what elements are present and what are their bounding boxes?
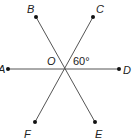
point-f — [33, 120, 37, 124]
point-c — [91, 15, 95, 19]
label-o: O — [47, 55, 56, 67]
label-e: E — [95, 128, 103, 140]
point-e — [93, 120, 97, 124]
label-a: A — [0, 63, 5, 75]
point-d — [117, 67, 121, 71]
diagram-canvas: A B C D E F O 60° — [0, 0, 132, 140]
point-a — [6, 67, 10, 71]
point-b — [34, 15, 38, 19]
label-c: C — [96, 3, 104, 15]
angle-label: 60° — [73, 55, 90, 67]
label-d: D — [123, 64, 131, 76]
label-b: B — [27, 3, 34, 15]
label-f: F — [24, 128, 32, 140]
